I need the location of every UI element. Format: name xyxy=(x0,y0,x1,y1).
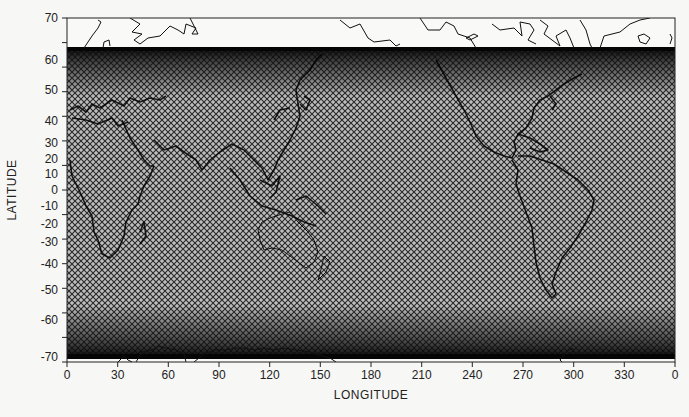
x-tick-label: 270 xyxy=(513,368,533,382)
y-tick-label: -70 xyxy=(41,350,59,364)
y-tick-label: 40 xyxy=(45,114,59,128)
y-tick-label: 20 xyxy=(45,152,59,166)
x-tick-label: 60 xyxy=(162,368,176,382)
x-tick-label: 150 xyxy=(310,368,330,382)
y-axis xyxy=(62,18,67,362)
y-tick-labels: 70 60 50 40 30 20 10 0 -10 -20 -30 -40 -… xyxy=(41,11,59,364)
x-tick-label: 0 xyxy=(64,368,71,382)
y-tick-label: 60 xyxy=(45,53,59,67)
x-tick-label: 90 xyxy=(212,368,226,382)
x-tick-label: 240 xyxy=(462,368,482,382)
x-tick-label: 300 xyxy=(564,368,584,382)
y-tick-label: -50 xyxy=(41,283,59,297)
x-tick-label: 180 xyxy=(361,368,381,382)
x-axis xyxy=(67,362,675,367)
coverage-map-chart: 70 60 50 40 30 20 10 0 -10 -20 -30 -40 -… xyxy=(0,0,689,417)
x-tick-label: 120 xyxy=(260,368,280,382)
x-tick-labels: 0 30 60 90 120 150 180 210 240 270 300 3… xyxy=(64,368,679,382)
y-tick-label: -10 xyxy=(41,199,59,213)
y-tick-label: -40 xyxy=(41,257,59,271)
y-tick-label: -30 xyxy=(41,235,59,249)
y-tick-label: 0 xyxy=(51,183,58,197)
y-tick-label: 10 xyxy=(45,167,59,181)
y-tick-label: -60 xyxy=(41,313,59,327)
x-tick-label: 30 xyxy=(111,368,125,382)
x-tick-label: 0 xyxy=(672,368,679,382)
y-axis-title: LATITUDE xyxy=(5,159,19,220)
x-tick-label: 210 xyxy=(412,368,432,382)
y-tick-label: 30 xyxy=(45,136,59,150)
ground-track-coverage-band xyxy=(67,47,675,359)
y-tick-label: 70 xyxy=(45,11,59,25)
x-axis-title: LONGITUDE xyxy=(334,388,409,402)
y-tick-label: 50 xyxy=(45,83,59,97)
x-tick-label: 330 xyxy=(614,368,634,382)
y-tick-label: -20 xyxy=(41,217,59,231)
